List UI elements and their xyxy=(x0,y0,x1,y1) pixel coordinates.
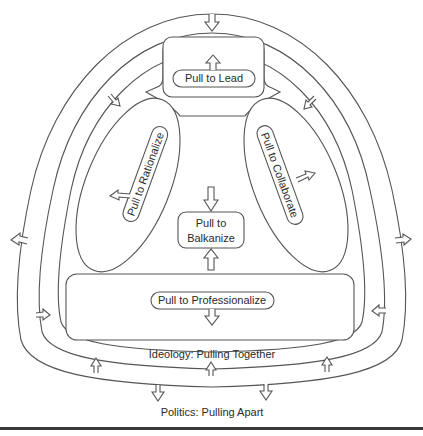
balkanize-label-line1: Pull to xyxy=(196,217,227,229)
bottom-rule xyxy=(0,427,423,430)
politics-bottom-right-arrow-icon xyxy=(260,384,272,400)
balkanize-bottom-arrow-icon xyxy=(204,249,218,270)
ideology-band-label: Ideology: Pulling Together xyxy=(149,348,276,360)
balkanize-top-arrow-icon xyxy=(204,187,218,211)
politics-left-arrow-icon xyxy=(11,233,28,245)
ideology-upper-right-arrow-icon xyxy=(304,96,316,109)
ideology-lower-left-arrow-icon xyxy=(36,309,50,320)
balkanize-label-line2: Balkanize xyxy=(187,232,235,244)
ideology-bottom-center-arrow-icon xyxy=(206,362,216,376)
politics-band-label: Politics: Pulling Apart xyxy=(161,406,264,418)
lead-label: Pull to Lead xyxy=(185,72,243,84)
politics-bottom-left-arrow-icon xyxy=(152,385,164,401)
forces-diagram: Pull to Lead Pull to Rationalize Pull to… xyxy=(0,0,423,436)
politics-right-arrow-icon xyxy=(395,234,411,245)
politics-top-arrow-icon xyxy=(205,14,219,31)
professionalize-label: Pull to Professionalize xyxy=(158,294,266,306)
